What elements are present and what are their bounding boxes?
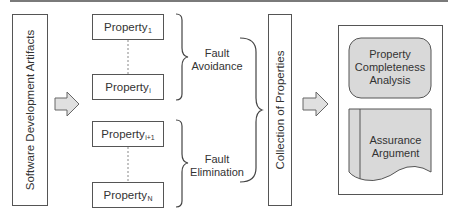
arrow-right-icon bbox=[303, 92, 328, 116]
brace-collection-icon bbox=[240, 38, 262, 182]
arrow-right-icon bbox=[55, 92, 79, 116]
brace-elimination-icon bbox=[176, 120, 188, 207]
argument-label: Assurance Argument bbox=[360, 134, 431, 160]
brace-avoidance-icon bbox=[176, 14, 188, 100]
diagram-graphics bbox=[0, 0, 457, 217]
analysis-label: Property Completeness Analysis bbox=[349, 48, 431, 87]
